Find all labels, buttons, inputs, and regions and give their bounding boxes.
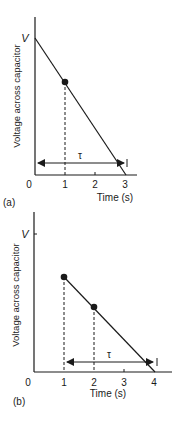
x-tick-3: 3	[122, 179, 128, 190]
x-tick-1: 1	[62, 179, 68, 190]
tau-label: τ	[78, 150, 82, 161]
x-tick-4: 4	[151, 377, 157, 388]
x-tick-2: 2	[91, 377, 97, 388]
x-tick-0: 0	[25, 377, 31, 388]
y-axis-label: Voltage across capacitor	[10, 243, 21, 347]
x-axis-label: Time (s)	[97, 192, 133, 203]
x-tick-1: 1	[61, 377, 67, 388]
x-tick-0: 0	[26, 179, 32, 190]
panel-label-b: (b)	[13, 396, 25, 407]
panel-label-a: (a)	[3, 197, 15, 208]
data-point	[62, 79, 69, 86]
panel-b: τ V Voltage across capacitor 0 1 2 3 4 T…	[10, 212, 172, 407]
data-point-1	[61, 274, 68, 281]
x-tick-3: 3	[121, 377, 127, 388]
x-tick-2: 2	[92, 179, 98, 190]
v-label: V	[21, 32, 30, 44]
capacitor-discharge-diagram: τ V Voltage across capacitor 0 1 2 3 Tim…	[0, 0, 180, 421]
y-axis-label: Voltage across capacitor	[11, 44, 22, 148]
tau-label: τ	[107, 349, 111, 360]
panel-a: τ V Voltage across capacitor 0 1 2 3 Tim…	[3, 17, 137, 208]
v-label: V	[21, 228, 30, 240]
data-point-2	[91, 304, 98, 311]
x-axis-label: Time (s)	[90, 388, 126, 399]
